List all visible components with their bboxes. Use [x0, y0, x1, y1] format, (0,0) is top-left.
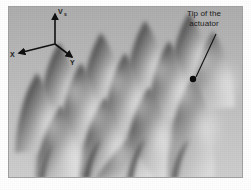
annotation-label-line2: actuator	[166, 19, 242, 29]
annotation-label-line1: Tip of the	[166, 9, 242, 19]
figure-container: V s X Y Tip of the actuator	[0, 0, 251, 190]
annotation-label: Tip of the actuator	[166, 9, 242, 29]
surface-plot	[9, 7, 243, 178]
surface-plot-frame	[8, 6, 243, 178]
